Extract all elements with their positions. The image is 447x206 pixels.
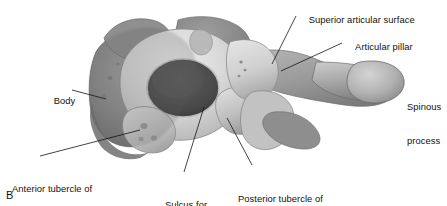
label-spinous-process-line-1: Spinous <box>407 101 441 112</box>
label-anterior-tubercle-of-transverse-process: Anterior tubercle of transverse process <box>12 160 92 206</box>
anatomy-figure-panel-b: Superior articular surface Articular pil… <box>0 0 447 206</box>
label-anterior-tubercle-line-1: Anterior tubercle of <box>12 183 92 194</box>
label-sulcus-for-nerve-line-1: Sulcus for <box>157 199 215 206</box>
label-body-line-1: Body <box>54 95 76 106</box>
label-articular-pillar-line-1: Articular pillar <box>355 41 413 52</box>
panel-letter: B <box>6 189 13 201</box>
label-posterior-tubercle-of-transverse-process: Posterior tubercle of transverse process <box>238 170 323 206</box>
label-body: Body <box>43 84 75 118</box>
label-spinous-process-line-2: process <box>407 135 441 146</box>
label-superior-articular-surface-line-1: Superior articular surface <box>309 14 415 25</box>
label-posterior-tubercle-line-1: Posterior tubercle of <box>238 193 323 204</box>
label-sulcus-for-nerve: Sulcus for nerve <box>157 176 215 206</box>
label-articular-pillar: Articular pillar <box>345 30 413 64</box>
label-spinous-process: Spinous process <box>407 78 441 169</box>
